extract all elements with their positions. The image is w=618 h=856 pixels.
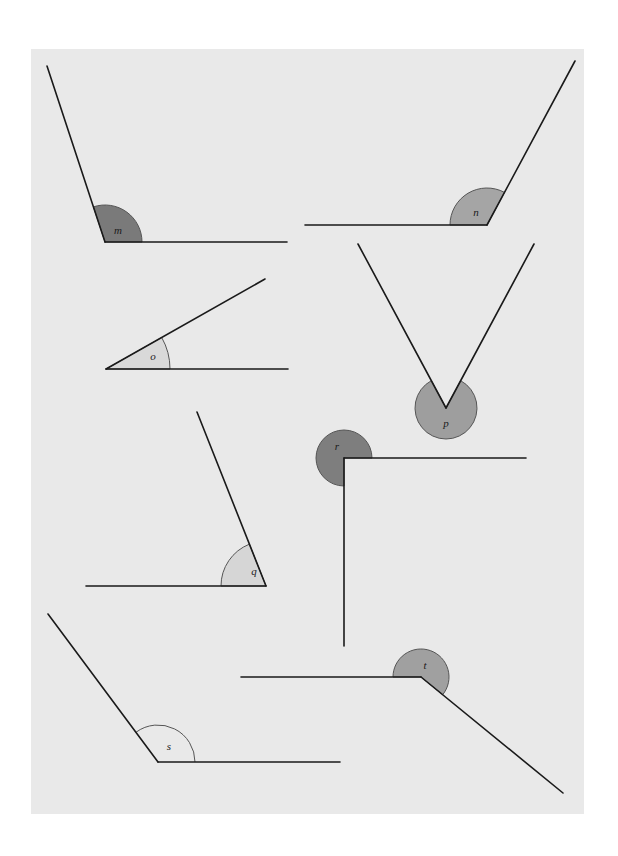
angle-n-label: n (473, 206, 479, 218)
angles-diagram: mnoprqst (0, 0, 618, 856)
angle-s-label: s (167, 740, 171, 752)
angle-r-label: r (335, 440, 340, 452)
angle-m-label: m (114, 224, 122, 236)
diagram-panel (31, 49, 584, 814)
angle-q-label: q (251, 565, 257, 577)
angle-o-label: o (150, 350, 156, 362)
angle-p-label: p (442, 417, 449, 429)
